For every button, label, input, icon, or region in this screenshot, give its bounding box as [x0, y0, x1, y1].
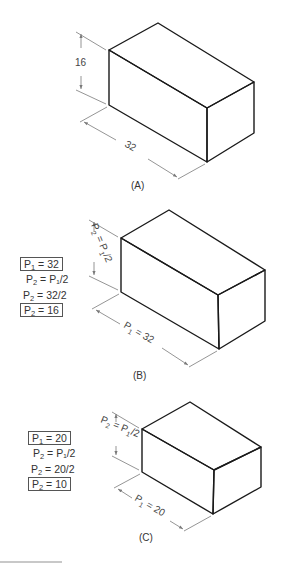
panel-b-caption: (B) [133, 370, 146, 381]
panel-a-length-dimension [80, 107, 205, 179]
panel-c-box [142, 402, 261, 514]
panel-a-caption: (A) [131, 180, 144, 191]
calc-b-row-4: P2 = 16 [20, 304, 63, 320]
panel-b-length-label: P1 = 32 [121, 319, 157, 347]
calc-c-row-1: P1 = 20 [28, 432, 71, 448]
panel-c-length-dimension [114, 474, 211, 531]
panel-b-height-label: P2 = P1/2 [87, 222, 115, 265]
calc-b-row-1: P1 = 32 [20, 258, 63, 274]
panel-b-length-dimension [92, 294, 217, 367]
calc-c-row-2: P2 = P₁/2 [33, 447, 75, 463]
panel-a-height-label: 16 [75, 57, 87, 68]
panel-a-length-label: 32 [123, 138, 139, 153]
bottom-rule [0, 561, 62, 563]
panel-c-length-label: P1 = 20 [132, 492, 168, 520]
calc-b-row-2: P2 = P₁/2 [26, 273, 68, 289]
calc-c-row-4: P2 = 10 [28, 478, 71, 494]
panel-c-height-label: P2 = P1/2 [99, 414, 142, 442]
panel-a-height-dimension [76, 32, 106, 104]
panel-c-caption: (C) [139, 532, 153, 543]
